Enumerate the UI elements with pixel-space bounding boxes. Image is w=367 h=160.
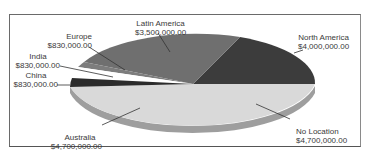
label-china: China $830,000.00 bbox=[2, 71, 58, 89]
label-north-america-value: $4,000,000.00 bbox=[298, 42, 349, 51]
label-china-value: $830,000.00 bbox=[2, 80, 58, 89]
label-no-location-value: $4,700,000.00 bbox=[296, 136, 347, 145]
label-india-value: $830,000.00 bbox=[4, 61, 60, 70]
label-north-america: North America $4,000,000.00 bbox=[298, 33, 349, 51]
label-no-location: No Location $4,700,000.00 bbox=[296, 127, 347, 145]
label-europe-name: Europe bbox=[36, 32, 92, 41]
label-europe-value: $830,000.00 bbox=[36, 41, 92, 50]
label-no-location-name: No Location bbox=[296, 127, 347, 136]
label-australia-name: Australia bbox=[44, 133, 102, 142]
label-latin-america-value: $3,500,000.00 bbox=[135, 28, 186, 37]
label-latin-america-name: Latin America bbox=[135, 19, 186, 28]
label-europe: Europe $830,000.00 bbox=[36, 32, 92, 50]
label-north-america-name: North America bbox=[298, 33, 349, 42]
label-australia: Australia $4,700,000.00 bbox=[44, 133, 102, 151]
label-australia-value: $4,700,000.00 bbox=[44, 142, 102, 151]
label-india-name: India bbox=[4, 52, 60, 61]
label-china-name: China bbox=[2, 71, 58, 80]
label-latin-america: Latin America $3,500,000.00 bbox=[135, 19, 186, 37]
label-india: India $830,000.00 bbox=[4, 52, 60, 70]
